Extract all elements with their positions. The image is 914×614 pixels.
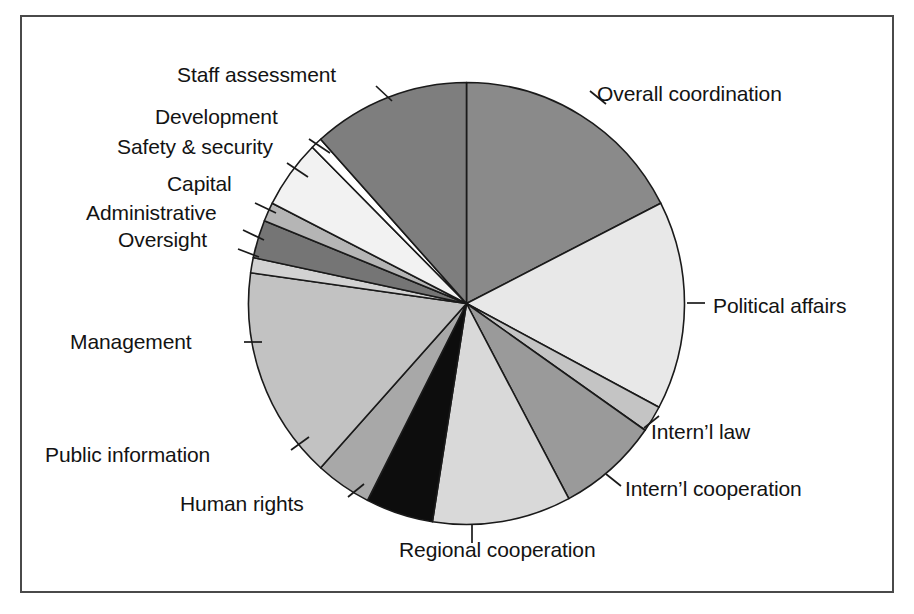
pie-label-capital: Capital bbox=[167, 172, 232, 196]
pie-label-overall-coordination: Overall coordination bbox=[597, 82, 782, 106]
pie-slice-group bbox=[248, 83, 684, 525]
pie-label-safety-security: Safety & security bbox=[117, 135, 273, 159]
pie-label-administrative: Administrative bbox=[86, 201, 216, 225]
chart-page: Staff assessment Development Safety & se… bbox=[0, 0, 914, 614]
pie-label-staff-assessment: Staff assessment bbox=[177, 63, 336, 87]
pie-label-internl-cooperation: Intern’l cooperation bbox=[625, 477, 802, 501]
pie-label-public-information: Public information bbox=[45, 443, 210, 467]
pie-label-regional-cooperation: Regional cooperation bbox=[399, 538, 595, 562]
pie-label-political-affairs: Political affairs bbox=[713, 294, 846, 318]
pie-label-oversight: Oversight bbox=[118, 228, 207, 252]
pie-label-development: Development bbox=[155, 105, 278, 129]
pie-label-internl-law: Intern’l law bbox=[651, 420, 750, 444]
leader-line-internl-cooperation bbox=[606, 474, 621, 486]
pie-label-human-rights: Human rights bbox=[180, 492, 304, 516]
pie-label-management: Management bbox=[70, 330, 192, 354]
